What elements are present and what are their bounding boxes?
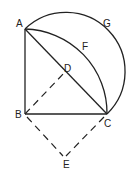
label-a: A [16,18,23,29]
label-e: E [63,159,70,170]
geometry-diagram: A B C D E F G [0,0,127,175]
label-g: G [103,18,111,29]
segment-be [27,117,63,156]
segment-bd [25,71,66,114]
label-c: C [104,118,111,129]
label-d: D [64,63,71,74]
label-f: F [82,41,88,52]
segment-ce [66,117,104,156]
label-b: B [15,109,22,120]
